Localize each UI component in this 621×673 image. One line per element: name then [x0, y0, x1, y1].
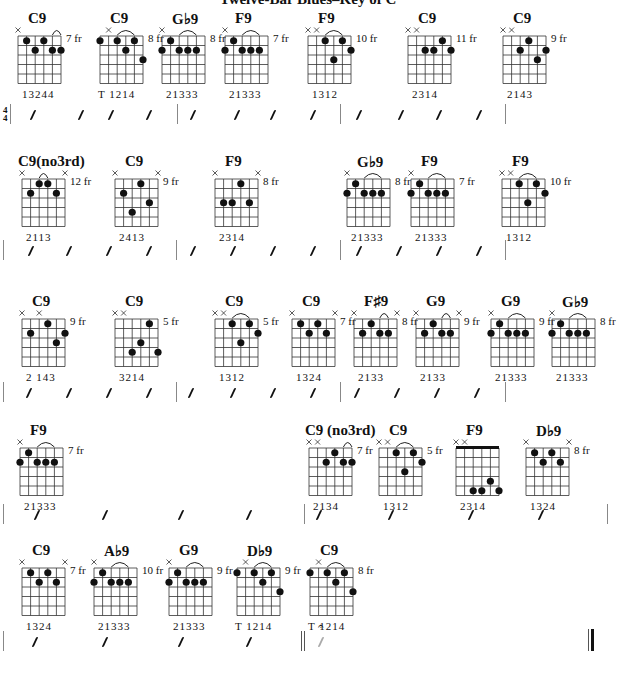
finger-dot-icon — [129, 209, 136, 216]
fretboard-grid — [22, 293, 105, 381]
muted-string-icon — [395, 311, 400, 316]
barline — [340, 240, 341, 260]
muted-string-icon — [508, 171, 513, 176]
muted-string-icon — [307, 440, 312, 445]
finger-dot-icon — [505, 330, 512, 337]
rhythm-slash — [398, 110, 405, 120]
fingering-label: 21333 — [495, 371, 528, 383]
fret-position-label: 10 fr — [550, 175, 571, 187]
finger-dot-icon — [548, 449, 555, 456]
rhythm-slash — [66, 388, 73, 398]
rhythm-slash — [310, 388, 317, 398]
barline — [304, 504, 305, 524]
barline — [177, 104, 178, 124]
fretboard-grid — [502, 153, 585, 241]
finger-dot-icon — [524, 199, 531, 206]
rhythm-slash — [436, 246, 443, 256]
rhythm-slash — [476, 246, 483, 256]
fret-position-label: 8 fr — [395, 175, 411, 187]
fret-position-label: 9 fr — [464, 315, 480, 327]
barre-arc-icon — [39, 174, 48, 179]
fretboard-grid — [379, 422, 462, 510]
finger-dot-icon — [25, 449, 32, 456]
finger-dot-icon — [522, 330, 529, 337]
fingering-label: 1312 — [312, 88, 338, 100]
finger-dot-icon — [470, 487, 477, 494]
finger-dot-icon — [447, 330, 454, 337]
barline — [505, 240, 506, 260]
muted-string-icon — [333, 311, 338, 316]
rhythm-slash — [538, 510, 545, 520]
fret-position-label: 7 fr — [70, 564, 86, 576]
rhythm-slash — [316, 510, 323, 520]
fret-position-label: 8 fr — [574, 444, 590, 456]
rhythm-slash — [34, 510, 41, 520]
finger-dot-icon — [237, 180, 244, 187]
rhythm-slash — [310, 110, 317, 120]
rhythm-slash — [190, 246, 197, 256]
fret-position-label: 9 fr — [551, 32, 567, 44]
finger-dot-icon — [525, 37, 532, 44]
finger-dot-icon — [90, 579, 97, 586]
fingering-label: 3214 — [119, 371, 145, 383]
finger-dot-icon — [407, 190, 414, 197]
finger-dot-icon — [221, 47, 228, 54]
fingering-label: T 1214 — [308, 620, 345, 632]
finger-dot-icon — [183, 579, 190, 586]
rhythm-slash — [476, 110, 483, 120]
finger-dot-icon — [348, 459, 355, 466]
rhythm-slash — [396, 246, 403, 256]
finger-dot-icon — [359, 330, 366, 337]
fingering-label: 21333 — [556, 371, 589, 383]
barline — [340, 104, 341, 124]
finger-dot-icon — [42, 459, 49, 466]
rhythm-slash — [102, 510, 109, 520]
fret-position-label: 10 fr — [142, 564, 163, 576]
finger-dot-icon — [53, 579, 60, 586]
finger-dot-icon — [422, 47, 429, 54]
barre-arc-icon — [442, 314, 451, 319]
rhythm-slash — [270, 388, 277, 398]
finger-dot-icon — [331, 449, 338, 456]
rhythm-slash — [108, 110, 115, 120]
rhythm-slash — [78, 110, 85, 120]
rhythm-slash — [394, 388, 401, 398]
finger-dot-icon — [191, 579, 198, 586]
finger-dot-icon — [108, 579, 115, 586]
finger-dot-icon — [534, 56, 541, 63]
finger-dot-icon — [36, 579, 43, 586]
rhythm-slash — [30, 110, 37, 120]
fingering-label: 13244 — [22, 88, 55, 100]
fingering-label: 21333 — [415, 231, 448, 243]
finger-dot-icon — [369, 190, 376, 197]
time-signature: 44 — [3, 106, 8, 122]
muted-string-icon — [243, 560, 248, 565]
finger-dot-icon — [376, 330, 383, 337]
fingering-label: 21333 — [166, 88, 199, 100]
finger-dot-icon — [49, 47, 56, 54]
fretboard-grid — [225, 10, 308, 98]
finger-dot-icon — [256, 47, 263, 54]
muted-string-icon — [20, 311, 25, 316]
fingering-label: 1324 — [26, 620, 52, 632]
muted-string-icon — [16, 28, 21, 33]
fermata-icon: 𝄐 — [318, 621, 324, 633]
finger-dot-icon — [442, 190, 449, 197]
finger-dot-icon — [137, 339, 144, 346]
fret-position-label: 7 fr — [273, 32, 289, 44]
finger-dot-icon — [531, 449, 538, 456]
rhythm-slash — [188, 388, 195, 398]
finger-dot-icon — [27, 569, 34, 576]
finger-dot-icon — [513, 330, 520, 337]
fingering-label: 2134 — [313, 500, 339, 512]
barre-arc-icon — [343, 443, 352, 448]
fret-position-label: 9 fr — [217, 564, 233, 576]
finger-dot-icon — [251, 569, 258, 576]
finger-dot-icon — [129, 349, 136, 356]
muted-string-icon — [213, 311, 218, 316]
muted-string-icon — [385, 440, 390, 445]
muted-string-icon — [567, 440, 572, 445]
finger-dot-icon — [430, 47, 437, 54]
muted-string-icon — [113, 311, 118, 316]
fingering-label: T 1214 — [235, 620, 272, 632]
